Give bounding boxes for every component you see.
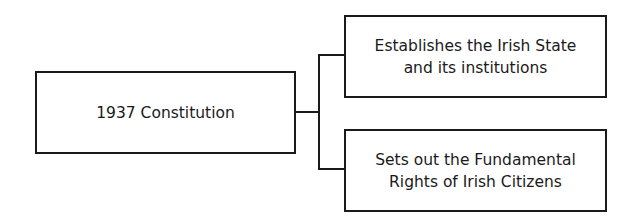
child-node-line-2: and its institutions [404,57,548,79]
connector-branch-top [318,54,345,56]
child-node-institutions: Establishes the Irish State and its inst… [344,15,607,98]
child-node-rights: Sets out the Fundamental Rights of Irish… [344,129,607,212]
connector-branch-bottom [318,168,345,170]
child-node-line-1: Establishes the Irish State [375,35,577,57]
connector-root-stub [296,111,320,113]
root-node: 1937 Constitution [35,71,296,154]
root-node-label: 1937 Constitution [96,102,235,124]
child-node-line-1: Sets out the Fundamental [375,149,576,171]
connector-vertical [318,54,320,170]
child-node-line-2: Rights of Irish Citizens [389,171,562,193]
